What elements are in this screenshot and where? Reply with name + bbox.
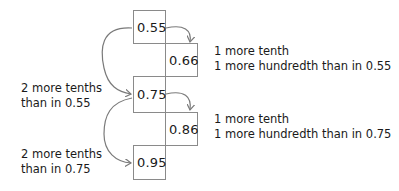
arrow-055-to-066: [166, 27, 190, 42]
note-right-2: 1 more tenth 1 more hundredth than in 0.…: [214, 112, 391, 142]
value-0-95: 0.95: [134, 156, 167, 169]
note-right-1: 1 more tenth 1 more hundredth than in 0.…: [214, 44, 391, 74]
value-box-0-86: 0.86: [165, 112, 198, 146]
note-right-1-line2: 1 more hundredth than in 0.55: [214, 59, 391, 74]
note-left-2: 2 more tenths than in 0.75: [21, 147, 102, 177]
value-box-0-66: 0.66: [165, 43, 198, 77]
note-left-1-line2: than in 0.55: [21, 96, 102, 111]
value-0-86: 0.86: [166, 123, 199, 136]
note-left-2-line2: than in 0.75: [21, 162, 102, 177]
note-left-1-line1: 2 more tenths: [21, 81, 102, 96]
value-box-0-55: 0.55: [133, 10, 166, 44]
note-right-2-line2: 1 more hundredth than in 0.75: [214, 127, 391, 142]
note-left-2-line1: 2 more tenths: [21, 147, 102, 162]
value-0-66: 0.66: [166, 54, 199, 67]
value-0-55: 0.55: [134, 21, 167, 34]
arrow-075-to-095: [104, 98, 132, 163]
value-box-0-75: 0.75: [133, 76, 166, 113]
value-0-75: 0.75: [134, 88, 167, 101]
note-right-2-line1: 1 more tenth: [214, 112, 391, 127]
arrow-055-to-075: [102, 28, 132, 94]
note-left-1: 2 more tenths than in 0.55: [21, 81, 102, 111]
arrow-075-to-086: [166, 93, 190, 110]
note-right-1-line1: 1 more tenth: [214, 44, 391, 59]
value-box-0-95: 0.95: [133, 145, 166, 180]
